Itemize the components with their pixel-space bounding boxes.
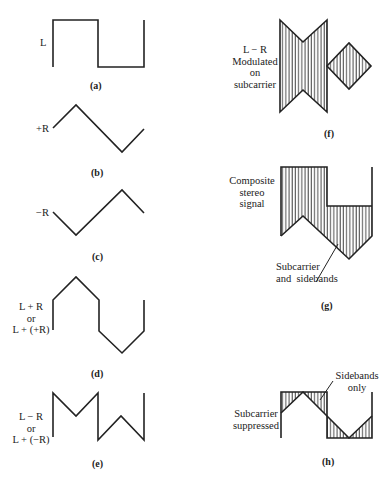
label-f: L − R Modulated on subcarrier	[230, 44, 280, 90]
annotation-h: Sidebands only	[332, 370, 382, 393]
label-g: Composite stereo signal	[226, 175, 278, 210]
label-e: L − R or L + (−R)	[10, 411, 52, 446]
waveform-diagram	[0, 0, 390, 482]
label-h: Subcarrier suppressed	[232, 408, 280, 431]
caption-f: (f)	[324, 128, 334, 139]
caption-c: (c)	[92, 251, 103, 262]
waveform-c-inverted-right-triangle	[53, 190, 144, 235]
caption-b: (b)	[91, 167, 103, 178]
label-a: L	[40, 37, 46, 49]
waveform-e-difference	[53, 393, 144, 440]
caption-a: (a)	[90, 80, 102, 91]
annotation-g: Subcarrier and sidebands	[276, 261, 338, 284]
label-c: −R	[36, 207, 49, 219]
label-d: L + R or L + (+R)	[10, 301, 52, 336]
label-b: +R	[36, 123, 49, 135]
caption-h: (h)	[322, 456, 334, 467]
waveform-a-left-square	[53, 20, 144, 67]
waveform-d-sum	[53, 277, 144, 353]
waveform-b-right-triangle	[53, 105, 144, 152]
caption-e: (e)	[92, 458, 103, 469]
caption-d: (d)	[91, 368, 103, 379]
waveform-f-modulated	[280, 20, 371, 112]
caption-g: (g)	[321, 300, 333, 311]
